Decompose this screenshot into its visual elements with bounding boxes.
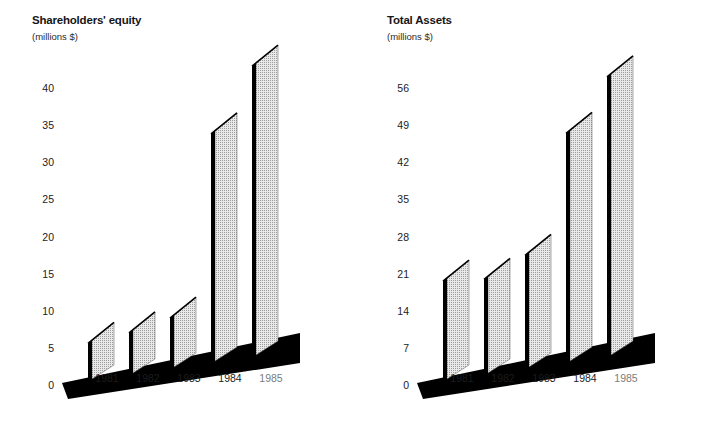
bar-side: [252, 63, 256, 358]
chart-panel-total-assets: Total Assets (millions $) 07142128354249…: [355, 0, 710, 424]
bar-face: [611, 56, 633, 355]
bar-1983: [525, 234, 551, 370]
bar-side: [170, 315, 174, 370]
x-axis: 19811982198319841985: [355, 372, 710, 390]
bar-1984: [566, 112, 592, 364]
bar-1985: [252, 45, 278, 358]
figure-root: Shareholders' equity (millions $) 051015…: [0, 0, 710, 424]
x-tick-label-1984: 1984: [573, 372, 596, 384]
bars-svg: [0, 0, 355, 424]
bars-canvas: [0, 0, 355, 424]
plot-area: 0510152025303540 19811982198319841985: [0, 0, 355, 424]
x-tick-label-1983: 1983: [177, 372, 200, 384]
bar-side: [443, 278, 447, 382]
bar-side: [484, 276, 488, 376]
bar-face: [447, 260, 469, 379]
bar-side: [525, 252, 529, 370]
bar-1984: [211, 113, 237, 364]
x-tick-label-1981: 1981: [95, 372, 118, 384]
bar-side: [211, 131, 215, 364]
bars-svg: [355, 0, 710, 424]
x-tick-label-1985: 1985: [614, 372, 637, 384]
plot-area: 0714212835424956 19811982198319841985: [355, 0, 710, 424]
bar-side: [129, 330, 133, 376]
bar-side: [607, 74, 611, 358]
bars-canvas: [355, 0, 710, 424]
x-tick-label-1983: 1983: [532, 372, 555, 384]
x-tick-label-1982: 1982: [491, 372, 514, 384]
x-tick-label-1982: 1982: [136, 372, 159, 384]
bar-face: [529, 234, 551, 367]
bar-face: [215, 113, 237, 361]
bar-1982: [484, 258, 510, 376]
bar-side: [566, 130, 570, 364]
x-axis: 19811982198319841985: [0, 372, 355, 390]
bar-1981: [443, 260, 469, 382]
x-tick-label-1985: 1985: [259, 372, 282, 384]
x-tick-label-1984: 1984: [218, 372, 241, 384]
bar-1985: [607, 56, 633, 358]
bar-face: [570, 112, 592, 361]
bar-face: [256, 45, 278, 355]
chart-panel-shareholders-equity: Shareholders' equity (millions $) 051015…: [0, 0, 355, 424]
x-tick-label-1981: 1981: [450, 372, 473, 384]
bar-face: [488, 258, 510, 373]
